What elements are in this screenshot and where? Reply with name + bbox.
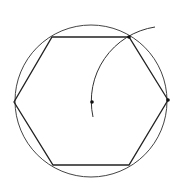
vertex-top-right <box>127 35 131 39</box>
vertex-right <box>166 98 170 102</box>
hexagon-construction-diagram <box>0 0 183 186</box>
center-point <box>90 100 94 104</box>
construction-points <box>90 35 170 104</box>
compass-arc <box>91 27 155 117</box>
